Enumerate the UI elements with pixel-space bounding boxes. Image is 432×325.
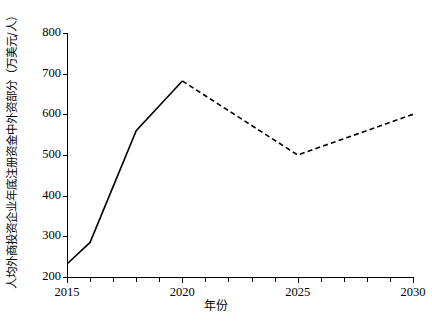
y-tick-label: 600 bbox=[42, 106, 61, 121]
x-axis-title: 年份 bbox=[0, 296, 432, 313]
y-tick-label: 800 bbox=[42, 25, 61, 40]
series-line-historical bbox=[67, 81, 182, 264]
y-tick-label: 400 bbox=[42, 188, 61, 203]
y-tick-label: 300 bbox=[42, 228, 61, 243]
plot-area: 200300400500600700800 2015202020252030 bbox=[67, 33, 413, 277]
y-axis-title-wrapper: 人均外商投资企业年底注册资金中外资部分（万美元/人） bbox=[0, 0, 24, 300]
chart-figure: 人均外商投资企业年底注册资金中外资部分（万美元/人） 2003004005006… bbox=[0, 0, 432, 325]
data-lines bbox=[67, 33, 414, 279]
y-tick-label: 200 bbox=[42, 269, 61, 284]
y-tick-label: 500 bbox=[42, 147, 61, 162]
y-axis-title: 人均外商投资企业年底注册资金中外资部分（万美元/人） bbox=[6, 11, 18, 290]
y-tick-label: 700 bbox=[42, 66, 61, 81]
series-line-forecast bbox=[182, 81, 413, 155]
